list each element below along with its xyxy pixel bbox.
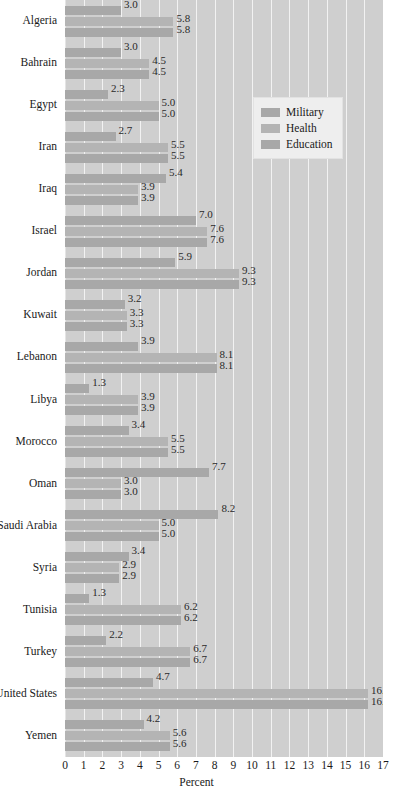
bar-group: 1.36.26.2 (65, 594, 383, 625)
bar-education[interactable] (65, 112, 159, 121)
bar-education[interactable] (65, 364, 217, 373)
bar-military[interactable] (65, 384, 89, 393)
bar-education[interactable] (65, 448, 168, 457)
bar-health[interactable] (65, 269, 239, 278)
bar-education[interactable] (65, 28, 173, 37)
bar-value-label: 5.8 (176, 13, 190, 24)
bar-group: 3.45.55.5 (65, 426, 383, 457)
bar-military[interactable] (65, 678, 153, 687)
bar-row: 5.5 (65, 448, 383, 457)
legend-label-education: Education (286, 138, 333, 150)
bar-military[interactable] (65, 720, 144, 729)
bar-value-label: 5.5 (171, 150, 185, 161)
bar-row: 1.3 (65, 384, 383, 393)
bar-military[interactable] (65, 636, 106, 645)
bar-health[interactable] (65, 101, 159, 110)
bar-health[interactable] (65, 143, 168, 152)
bar-row: 3.0 (65, 490, 383, 499)
bar-value-label: 1.3 (92, 377, 106, 388)
bar-education[interactable] (65, 70, 149, 79)
bar-group: 3.42.92.9 (65, 552, 383, 583)
bar-military[interactable] (65, 258, 175, 267)
bar-education[interactable] (65, 658, 190, 667)
bar-value-label: 16.2 (371, 696, 383, 707)
bar-row: 3.4 (65, 426, 383, 435)
bar-row: 5.4 (65, 174, 383, 183)
bar-education[interactable] (65, 574, 119, 583)
bar-health[interactable] (65, 59, 149, 68)
bar-value-label: 4.5 (152, 66, 166, 77)
bar-value-label: 8.2 (221, 503, 235, 514)
bar-military[interactable] (65, 300, 125, 309)
bar-row: 1.3 (65, 594, 383, 603)
bar-education[interactable] (65, 490, 121, 499)
bar-health[interactable] (65, 689, 368, 698)
bar-education[interactable] (65, 280, 239, 289)
legend-item-health[interactable]: Health (261, 120, 333, 136)
legend-item-education[interactable]: Education (261, 136, 333, 152)
x-tick-label: 9 (230, 759, 236, 771)
bar-military[interactable] (65, 426, 129, 435)
bar-value-label: 3.0 (124, 486, 138, 497)
bar-health[interactable] (65, 479, 121, 488)
bar-military[interactable] (65, 132, 116, 141)
bar-education[interactable] (65, 742, 170, 751)
bar-education[interactable] (65, 238, 207, 247)
bar-military[interactable] (65, 90, 108, 99)
bar-group: 4.716.216.2 (65, 678, 383, 709)
bar-row: 7.7 (65, 468, 383, 477)
bar-education[interactable] (65, 322, 127, 331)
bar-row: 4.5 (65, 70, 383, 79)
bar-value-label: 2.7 (119, 125, 133, 136)
bar-education[interactable] (65, 406, 138, 415)
chart-legend: Military Health Education (253, 97, 343, 159)
bar-education[interactable] (65, 616, 181, 625)
bar-health[interactable] (65, 227, 207, 236)
bar-value-label: 7.7 (212, 461, 226, 472)
bar-health[interactable] (65, 647, 190, 656)
bar-row: 4.2 (65, 720, 383, 729)
bar-health[interactable] (65, 311, 127, 320)
bar-education[interactable] (65, 700, 368, 709)
legend-item-military[interactable]: Military (261, 104, 333, 120)
bar-education[interactable] (65, 532, 159, 541)
bar-health[interactable] (65, 605, 181, 614)
bar-group: 7.07.67.6 (65, 216, 383, 247)
bar-value-label: 6.2 (184, 612, 198, 623)
bar-military[interactable] (65, 552, 129, 561)
bar-health[interactable] (65, 17, 173, 26)
bar-row: 16.2 (65, 689, 383, 698)
bar-health[interactable] (65, 185, 138, 194)
category-label: Oman (29, 477, 57, 489)
bar-group: 2.26.76.7 (65, 636, 383, 667)
bar-row: 7.0 (65, 216, 383, 225)
bar-row: 3.9 (65, 196, 383, 205)
bar-health[interactable] (65, 353, 217, 362)
bar-health[interactable] (65, 521, 159, 530)
bar-group: 3.05.85.8 (65, 6, 383, 37)
bar-military[interactable] (65, 594, 89, 603)
bar-health[interactable] (65, 731, 170, 740)
legend-label-health: Health (286, 122, 317, 134)
bar-group: 7.73.03.0 (65, 468, 383, 499)
bar-military[interactable] (65, 342, 138, 351)
bar-education[interactable] (65, 196, 138, 205)
bar-military[interactable] (65, 510, 218, 519)
bar-military[interactable] (65, 6, 121, 15)
bar-health[interactable] (65, 563, 119, 572)
bar-group: 3.98.18.1 (65, 342, 383, 373)
bar-row: 16.2 (65, 700, 383, 709)
bar-row: 8.1 (65, 364, 383, 373)
bar-health[interactable] (65, 395, 138, 404)
x-tick-label: 0 (62, 759, 68, 771)
bar-row: 3.9 (65, 395, 383, 404)
bar-military[interactable] (65, 48, 121, 57)
bar-row: 6.2 (65, 616, 383, 625)
category-label: Iraq (38, 182, 57, 194)
bar-value-label: 5.4 (169, 167, 183, 178)
bar-military[interactable] (65, 216, 196, 225)
bar-education[interactable] (65, 154, 168, 163)
bar-value-label: 4.7 (156, 671, 170, 682)
bar-row: 2.9 (65, 563, 383, 572)
bar-health[interactable] (65, 437, 168, 446)
